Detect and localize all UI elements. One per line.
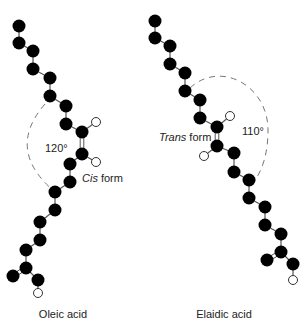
carbon-atom — [179, 85, 192, 98]
form-word: form — [186, 131, 211, 143]
carbon-atom — [20, 262, 33, 275]
carbon-atom — [34, 234, 47, 247]
cis-word: Cis — [82, 172, 98, 184]
carbon-atom — [179, 67, 192, 80]
hydrogen-atom — [226, 112, 235, 121]
carbon-atom — [194, 112, 207, 125]
carbon-atom — [194, 94, 207, 107]
elaidic-acid-caption: Elaidic acid — [196, 308, 252, 320]
hydrogen-atom — [289, 276, 298, 285]
hydrogen-atom — [34, 289, 43, 298]
carbon-atom — [275, 228, 288, 241]
carbon-atom — [287, 258, 300, 271]
carbon-atom — [243, 192, 256, 205]
carbon-atom — [259, 219, 272, 232]
hydrogen-atom — [92, 158, 101, 167]
carbon-atom — [228, 166, 241, 179]
carbon-atom — [211, 121, 224, 134]
carbon-atom — [44, 72, 57, 85]
carbon-atom — [275, 246, 288, 259]
hydrogen-atom — [200, 152, 209, 161]
carbon-atom — [27, 63, 40, 76]
elaidic-angle-label: 110° — [242, 125, 264, 137]
trans-word: Trans — [159, 131, 187, 143]
oleic-acid-structure — [7, 20, 101, 298]
carbon-atom — [60, 100, 73, 113]
carbon-atom — [228, 147, 241, 160]
carbon-atom — [76, 148, 89, 161]
hydrogen-atom — [92, 118, 101, 127]
carbon-atom — [261, 254, 274, 267]
carbon-atom — [149, 32, 162, 45]
oleic-angle-label: 120° — [45, 142, 68, 154]
carbon-atom — [49, 186, 62, 199]
carbon-atom — [64, 176, 77, 189]
carbon-atom — [76, 126, 89, 139]
carbon-atom — [211, 140, 224, 153]
carbon-atom — [243, 174, 256, 187]
form-word: form — [98, 172, 123, 184]
carbon-atom — [13, 20, 26, 33]
carbon-atom — [259, 201, 272, 214]
carbon-atom — [20, 244, 33, 257]
elaidic-acid-structure — [149, 15, 300, 285]
carbon-atom — [49, 204, 62, 217]
oleic-acid-caption: Oleic acid — [39, 308, 87, 320]
carbon-atom — [27, 45, 40, 58]
carbon-atom — [60, 118, 73, 131]
carbon-atom — [149, 15, 162, 28]
carbon-atom — [13, 37, 26, 50]
carbon-atom — [64, 158, 77, 171]
cis-form-label: Cis form — [82, 172, 123, 184]
carbon-atom — [32, 274, 45, 287]
fatty-acid-diagram: 120° Cis form 110° Trans form Oleic acid… — [0, 0, 307, 327]
carbon-atom — [44, 90, 57, 103]
carbon-atom — [164, 40, 177, 53]
carbon-atom — [164, 58, 177, 71]
trans-form-label: Trans form — [159, 131, 211, 143]
carbon-atom — [7, 270, 20, 283]
carbon-atom — [34, 216, 47, 229]
